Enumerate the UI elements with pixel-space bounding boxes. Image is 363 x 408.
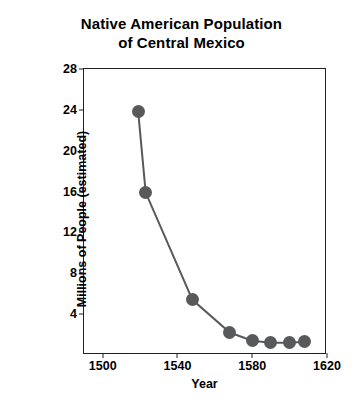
x-tick-label: 1540 xyxy=(164,359,192,373)
y-tick-label: 16 xyxy=(63,185,77,199)
y-tick-mark xyxy=(79,314,84,315)
chart-card: Native American Population of Central Me… xyxy=(0,0,363,408)
y-tick-mark xyxy=(79,109,84,110)
y-tick-label: 20 xyxy=(63,144,77,158)
y-tick-label: 4 xyxy=(70,307,77,321)
y-tick-mark xyxy=(79,232,84,233)
y-tick-label: 24 xyxy=(63,103,77,117)
y-tick-label: 12 xyxy=(63,225,77,239)
data-point xyxy=(246,334,259,347)
x-tick-label: 1500 xyxy=(89,359,117,373)
x-tick-mark xyxy=(102,353,103,358)
plot-area xyxy=(84,69,325,353)
x-tick-mark xyxy=(252,353,253,358)
x-tick-label: 1620 xyxy=(313,359,341,373)
chart-title-line-2: of Central Mexico xyxy=(0,33,363,52)
chart-title: Native American Population of Central Me… xyxy=(0,14,363,52)
y-tick-mark xyxy=(79,69,84,70)
y-tick-mark xyxy=(79,273,84,274)
series-line xyxy=(84,69,327,355)
y-axis-label: Millions of People (estimated) xyxy=(75,76,89,362)
x-tick-mark xyxy=(177,353,178,358)
y-tick-mark xyxy=(79,191,84,192)
plot-frame: Millions of People (estimated) Year 4812… xyxy=(83,68,326,354)
y-tick-mark xyxy=(79,150,84,151)
x-tick-label: 1580 xyxy=(238,359,266,373)
series-polyline xyxy=(138,112,304,343)
y-tick-label: 28 xyxy=(63,62,77,76)
chart-title-line-1: Native American Population xyxy=(0,14,363,33)
x-axis-label: Year xyxy=(84,377,325,391)
y-tick-label: 8 xyxy=(70,266,77,280)
x-tick-mark xyxy=(327,353,328,358)
